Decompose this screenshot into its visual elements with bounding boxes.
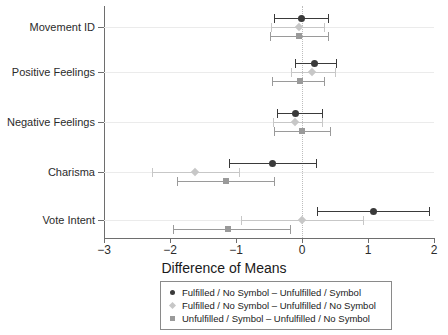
data-point-marker-diamond: [191, 168, 199, 176]
x-axis-tick-label: 2: [431, 243, 438, 257]
gridline: [104, 72, 434, 73]
confidence-interval-cap: [328, 14, 329, 23]
confidence-interval-cap: [295, 59, 296, 68]
y-axis-label-negative-feelings: Negative Feelings: [7, 116, 95, 128]
legend-item-1[interactable]: Fulfilled / No Symbol – Unfulfilled / No…: [166, 299, 385, 312]
legend-marker-square-icon: [166, 316, 178, 321]
confidence-interval-cap: [152, 168, 153, 177]
forest-plot-chart: Movement IDPositive FeelingsNegative Fee…: [0, 0, 448, 335]
confidence-interval-cap: [270, 32, 271, 41]
confidence-interval-cap: [322, 109, 323, 118]
data-point-marker-square: [299, 128, 305, 134]
confidence-interval-cap: [336, 59, 337, 68]
confidence-interval-cap: [335, 68, 336, 77]
data-point-marker-circle: [298, 15, 305, 22]
confidence-interval-cap: [322, 118, 323, 127]
confidence-interval-cap: [274, 127, 275, 136]
x-axis-line: [104, 238, 435, 239]
data-point-marker-diamond: [291, 118, 299, 126]
confidence-interval-cap: [324, 23, 325, 32]
y-axis-tick: [98, 172, 104, 173]
confidence-interval-cap: [274, 14, 275, 23]
data-point-marker-circle: [269, 160, 276, 167]
data-point-marker-circle: [370, 208, 377, 215]
confidence-interval-cap: [328, 32, 329, 41]
confidence-interval-cap: [291, 68, 292, 77]
gridline: [104, 122, 434, 123]
confidence-interval-cap: [317, 207, 318, 216]
legend-item-0[interactable]: Fulfilled / No Symbol – Unfulfilled / Sy…: [166, 286, 385, 299]
legend-label-0: Fulfilled / No Symbol – Unfulfilled / Sy…: [182, 287, 361, 298]
x-axis-tick-label: −1: [229, 243, 243, 257]
data-point-marker-circle: [311, 60, 318, 67]
confidence-interval-cap: [316, 159, 317, 168]
plot-area: Movement IDPositive FeelingsNegative Fee…: [104, 6, 434, 238]
chart-legend: Fulfilled / No Symbol – Unfulfilled / Sy…: [160, 281, 392, 330]
gridline: [104, 27, 434, 28]
x-axis-tick-label: 0: [299, 243, 306, 257]
y-axis-tick: [98, 220, 104, 221]
confidence-interval-cap: [173, 225, 174, 234]
confidence-interval-bar: [277, 113, 322, 114]
confidence-interval-cap: [273, 118, 274, 127]
legend-label-2: Unfulfilled / Symbol – Unfulfilled / No …: [182, 313, 370, 324]
data-point-marker-diamond: [298, 216, 306, 224]
data-point-marker-square: [297, 78, 303, 84]
confidence-interval-cap: [272, 77, 273, 86]
y-axis-label-vote-intent: Vote Intent: [42, 214, 95, 226]
confidence-interval-bar: [173, 229, 290, 230]
legend-item-2[interactable]: Unfulfilled / Symbol – Unfulfilled / No …: [166, 312, 385, 325]
confidence-interval-cap: [277, 109, 278, 118]
data-point-marker-square: [296, 33, 302, 39]
y-axis-label-movement-id: Movement ID: [30, 21, 95, 33]
confidence-interval-cap: [290, 225, 291, 234]
x-axis-tick-label: −2: [163, 243, 177, 257]
confidence-interval-cap: [429, 207, 430, 216]
legend-label-1: Fulfilled / No Symbol – Unfulfilled / No…: [182, 300, 376, 311]
y-axis-label-positive-feelings: Positive Feelings: [12, 66, 95, 78]
confidence-interval-cap: [229, 159, 230, 168]
legend-marker-diamond-icon: [166, 303, 178, 308]
data-point-marker-circle: [292, 110, 299, 117]
y-axis-tick: [98, 27, 104, 28]
data-point-marker-square: [223, 178, 229, 184]
y-axis-label-charisma: Charisma: [48, 166, 95, 178]
confidence-interval-cap: [330, 127, 331, 136]
confidence-interval-cap: [239, 168, 240, 177]
data-point-marker-square: [225, 226, 231, 232]
y-axis-tick: [98, 122, 104, 123]
legend-marker-circle-icon: [166, 290, 178, 295]
confidence-interval-cap: [271, 23, 272, 32]
confidence-interval-cap: [363, 216, 364, 225]
confidence-interval-cap: [274, 177, 275, 186]
confidence-interval-cap: [177, 177, 178, 186]
x-axis-tick-label: −3: [97, 243, 111, 257]
y-axis-tick: [98, 72, 104, 73]
data-point-marker-diamond: [308, 68, 316, 76]
x-axis-title: Difference of Means: [0, 260, 448, 276]
confidence-interval-cap: [324, 77, 325, 86]
confidence-interval-cap: [241, 216, 242, 225]
x-axis-tick-label: 1: [365, 243, 372, 257]
